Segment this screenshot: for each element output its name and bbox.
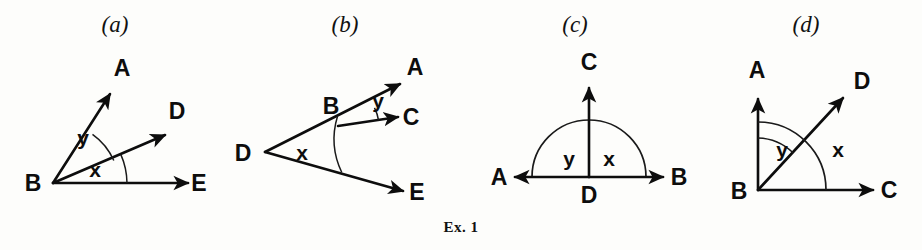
ray-de xyxy=(265,152,403,191)
diagram-a: B A D E y x xyxy=(25,55,207,196)
ray-bc xyxy=(338,117,398,126)
angle-arc-y xyxy=(93,134,114,160)
point-label-d: D xyxy=(854,68,871,94)
ray-bd xyxy=(758,98,843,190)
point-label-c: C xyxy=(581,49,598,75)
angle-label-y: y xyxy=(77,126,89,149)
point-label-b: B xyxy=(731,178,748,204)
point-label-a: A xyxy=(749,57,766,83)
figure-caption: Ex. 1 xyxy=(0,219,922,236)
point-label-c: C xyxy=(881,177,898,203)
diagram-c: C A B D y x xyxy=(491,49,688,208)
diagram-b: D B A C E x y xyxy=(235,54,425,205)
point-label-b: B xyxy=(323,93,340,119)
point-label-a: A xyxy=(407,54,424,80)
angle-label-x: x xyxy=(89,158,101,181)
point-label-e: E xyxy=(409,179,424,205)
point-label-e: E xyxy=(191,170,206,196)
point-label-b: B xyxy=(25,170,42,196)
angle-label-y: y xyxy=(776,138,788,161)
angle-label-y: y xyxy=(372,89,384,112)
angle-label-x: x xyxy=(603,147,615,170)
point-label-d: D xyxy=(581,182,598,208)
diagram-canvas: B A D E y x D B A C E x y xyxy=(0,0,922,250)
point-label-d: D xyxy=(169,98,186,124)
point-label-a: A xyxy=(114,55,131,81)
angle-label-x: x xyxy=(832,138,844,161)
angle-arc-x xyxy=(121,154,127,183)
point-label-a: A xyxy=(491,164,508,190)
angle-label-x: x xyxy=(296,141,308,164)
angle-label-y: y xyxy=(563,147,575,170)
point-label-b: B xyxy=(671,164,688,190)
diagram-d: A D B C y x xyxy=(731,57,898,204)
point-label-d: D xyxy=(235,140,252,166)
exercise-figure: (a) (b) (c) (d) B A D E y xyxy=(0,0,922,250)
point-label-c: C xyxy=(403,104,420,130)
